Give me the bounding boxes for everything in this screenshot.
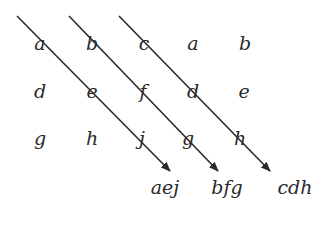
grid-cell: d	[187, 82, 199, 101]
grid-cell: h	[234, 129, 246, 148]
grid-cell: d	[34, 82, 46, 101]
grid-cell: e	[238, 82, 249, 101]
grid-cell: b	[86, 34, 98, 53]
result-label: cdh	[277, 178, 312, 197]
grid-cell: c	[139, 34, 150, 53]
result-label: bfg	[211, 178, 242, 197]
grid-cell: e	[86, 82, 97, 101]
grid-cell: b	[239, 34, 251, 53]
grid-cell: j	[139, 129, 145, 148]
grid-cell: a	[34, 34, 45, 53]
result-label: aej	[151, 178, 179, 197]
grid-cell: g	[34, 129, 46, 148]
grid-cell: a	[187, 34, 198, 53]
grid-cell: g	[182, 129, 194, 148]
grid-cell: h	[86, 129, 98, 148]
grid-cell: f	[139, 82, 146, 101]
